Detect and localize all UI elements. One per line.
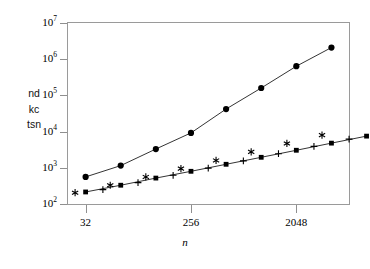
x-tick-mark	[191, 205, 192, 213]
x-tick-label: 256	[161, 217, 221, 228]
x-axis-title: n	[0, 236, 370, 248]
y-tick-mark	[60, 132, 67, 133]
y-tick-label: 106	[42, 53, 57, 64]
y-tick-mark	[60, 204, 67, 205]
x-tick-mark	[296, 205, 297, 213]
y-tick-mark	[60, 23, 67, 24]
y-tick-label: 102	[42, 198, 57, 209]
y-axis-title-line-3: tsn	[14, 117, 54, 133]
y-tick-label: 107	[42, 17, 57, 28]
y-tick-mark	[60, 168, 67, 169]
y-axis-title-line-2: kc	[14, 102, 54, 118]
y-tick-mark	[60, 59, 67, 60]
y-axis-title: nd kc tsn	[14, 86, 54, 133]
plot-area	[67, 22, 350, 205]
x-tick-mark	[86, 205, 87, 213]
x-tick-label: 32	[56, 217, 116, 228]
y-tick-label: 103	[42, 162, 57, 173]
chart-figure: 102103104105106107 322562048 nd kc tsn n	[0, 0, 370, 269]
x-tick-label: 2048	[266, 217, 326, 228]
y-axis-title-line-1: nd	[14, 86, 54, 102]
y-tick-mark	[60, 95, 67, 96]
